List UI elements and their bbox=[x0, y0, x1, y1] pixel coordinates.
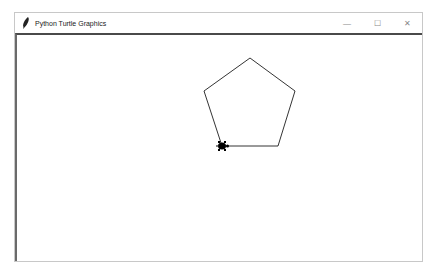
drawing-layer bbox=[0, 0, 439, 266]
turtle-cursor-icon bbox=[216, 141, 229, 151]
pentagon-shape bbox=[204, 58, 295, 146]
